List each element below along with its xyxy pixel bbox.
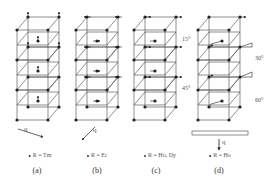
bullet-icon [87, 155, 89, 157]
panel-b-structure [74, 15, 122, 121]
caption-b: (b) [92, 166, 101, 175]
label-c: R = Ho, Dy [144, 152, 176, 158]
angle-label-c-45: 45° [182, 85, 190, 91]
panel-a-structure [15, 12, 60, 122]
caption-d: (d) [214, 166, 223, 175]
bullet-icon [29, 155, 31, 157]
angle-label-c-15: 15° [182, 36, 190, 42]
q-label-a: q [24, 125, 28, 133]
bullet-icon [144, 155, 146, 157]
panel-d-structure [192, 15, 252, 135]
q-label-d: q [222, 138, 226, 146]
angle-label-d-60: 60° [255, 97, 263, 103]
bullet-icon [209, 155, 211, 157]
q-arrow-a [18, 129, 43, 137]
caption-a: (a) [33, 166, 42, 175]
label-b: R = Er [87, 152, 107, 158]
angle-label-d-30: 30° [255, 55, 263, 61]
label-a: R = Tm [29, 152, 52, 158]
magnetic-structures-diagram [0, 0, 280, 186]
panel-c-structure [132, 15, 182, 121]
caption-c: (c) [152, 166, 161, 175]
q-label-b: q [93, 126, 97, 134]
label-d: R = Ho [209, 152, 231, 158]
